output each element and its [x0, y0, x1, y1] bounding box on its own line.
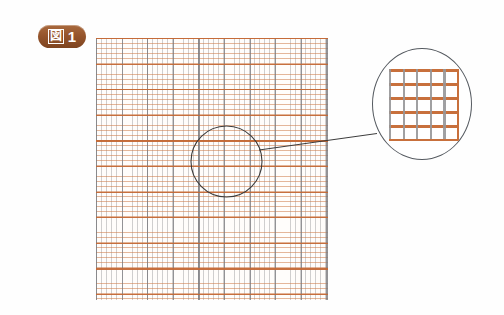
graph-paper-grid [96, 38, 328, 300]
figure-label-kanji: 図 [48, 29, 64, 44]
figure-canvas: 図 1 [0, 0, 504, 315]
figure-label-number: 1 [68, 29, 76, 44]
magnified-grid [389, 69, 459, 141]
grid-bold-lines [96, 38, 328, 300]
figure-label-badge: 図 1 [38, 25, 86, 48]
magnifier-circle [372, 48, 472, 160]
